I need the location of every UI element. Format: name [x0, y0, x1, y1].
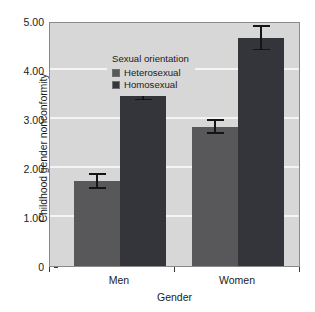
plot-area: Sexual orientation Heterosexual Homosexu…	[49, 22, 300, 267]
error-bar-cap-top	[89, 173, 106, 175]
error-bar-cap-bottom	[135, 99, 152, 101]
legend-swatch-homosexual	[112, 81, 120, 89]
legend: Sexual orientation Heterosexual Homosexu…	[107, 50, 195, 96]
x-tick-mark	[174, 267, 175, 272]
legend-swatch-heterosexual	[112, 69, 120, 77]
x-tick-mark	[299, 267, 300, 272]
legend-item-homosexual: Homosexual	[112, 79, 189, 92]
legend-title: Sexual orientation	[112, 53, 189, 66]
error-bar-cap-top	[207, 119, 224, 121]
bar-chart-figure: Childhood gender nonconformity 01.002.00…	[0, 0, 315, 312]
legend-label-homosexual: Homosexual	[124, 79, 177, 92]
y-tick-label: 0	[14, 261, 44, 273]
y-tick-label: 3.00	[14, 114, 44, 126]
x-axis-label: Gender	[49, 291, 300, 303]
y-tick-label: 2.00	[14, 163, 44, 175]
x-axis: Gender MenWomen	[49, 267, 300, 312]
x-tick-label-men: Men	[84, 274, 154, 286]
bar-men-heterosexual	[74, 181, 120, 266]
legend-label-heterosexual: Heterosexual	[124, 67, 181, 80]
error-bar-women-homosexual	[238, 25, 284, 50]
error-bar-cap-bottom	[253, 49, 270, 51]
error-bar-women-heterosexual	[192, 119, 238, 134]
y-tick-label: 4.00	[14, 65, 44, 77]
bar-women-homosexual	[238, 38, 284, 266]
error-bar-men-heterosexual	[74, 173, 120, 188]
error-bar-stem	[260, 25, 262, 50]
y-tick-label: 5.00	[14, 16, 44, 28]
y-tick-label: 1.00	[14, 212, 44, 224]
x-tick-mark	[49, 267, 50, 272]
error-bar-cap-bottom	[89, 187, 106, 189]
legend-item-heterosexual: Heterosexual	[112, 67, 189, 80]
error-bar-cap-top	[253, 25, 270, 27]
x-tick-label-women: Women	[202, 274, 272, 286]
y-axis-ticks: 01.002.003.004.005.00	[10, 0, 44, 312]
bar-women-heterosexual	[192, 127, 238, 266]
error-bar-cap-bottom	[207, 132, 224, 134]
bar-men-homosexual	[120, 88, 166, 266]
